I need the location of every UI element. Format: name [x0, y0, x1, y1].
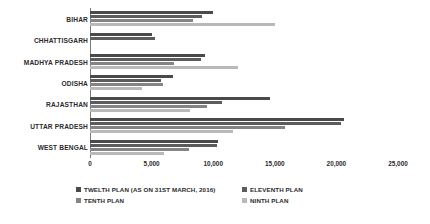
bar — [90, 83, 163, 86]
bar-group — [90, 8, 398, 29]
x-axis-tick-label: 20,000 — [327, 160, 347, 167]
bar-group — [90, 94, 398, 115]
bar-group — [90, 29, 398, 50]
legend-item[interactable]: ELEVENTH PLAN — [242, 186, 372, 193]
bar — [90, 126, 285, 129]
x-axis-ticks: 05,00010,00015,00020,00025,000 — [90, 160, 398, 174]
bar — [90, 15, 202, 18]
bar — [90, 23, 275, 26]
bar — [90, 37, 155, 40]
chart-legend: TWELTH PLAN (AS ON 31ST MARCH, 2016)ELEV… — [76, 184, 376, 206]
bar — [90, 19, 193, 22]
bar — [90, 54, 205, 57]
legend-item[interactable]: NINTH PLAN — [242, 197, 372, 204]
bar — [90, 105, 207, 108]
bar — [90, 79, 161, 82]
bar-group — [90, 137, 398, 158]
bar — [90, 144, 217, 147]
bar — [90, 152, 164, 155]
bar — [90, 122, 341, 125]
x-axis-tick-label: 25,000 — [388, 160, 408, 167]
x-axis-tick-label: 15,000 — [265, 160, 285, 167]
bar — [90, 148, 189, 151]
bar — [90, 87, 142, 90]
category-label: MADHYA PRADESH — [2, 58, 88, 65]
bar — [90, 75, 173, 78]
category-label: BIHAR — [2, 15, 88, 22]
bar — [90, 33, 152, 36]
bar — [90, 140, 218, 143]
category-label: WEST BENGAL — [2, 144, 88, 151]
x-axis-tick-label: 0 — [88, 160, 92, 167]
legend-swatch-icon — [76, 187, 81, 192]
category-label: RAJASTHAN — [2, 101, 88, 108]
category-axis-labels: BIHARCHHATTISGARHMADHYA PRADESHODISHARAJ… — [0, 8, 88, 158]
bar — [90, 130, 233, 133]
x-axis-tick-label: 5,000 — [144, 160, 160, 167]
category-label: ODISHA — [2, 80, 88, 87]
bar — [90, 97, 270, 100]
bar — [90, 62, 174, 65]
legend-label: NINTH PLAN — [250, 197, 288, 204]
bar-group — [90, 115, 398, 136]
legend-label: TENTH PLAN — [84, 197, 124, 204]
bar — [90, 101, 222, 104]
bar — [90, 118, 344, 121]
bar-group — [90, 72, 398, 93]
legend-swatch-icon — [242, 187, 247, 192]
bar — [90, 11, 213, 14]
bar-chart: BIHARCHHATTISGARHMADHYA PRADESHODISHARAJ… — [0, 0, 430, 224]
bar — [90, 58, 201, 61]
bar — [90, 109, 190, 112]
legend-label: ELEVENTH PLAN — [250, 186, 303, 193]
legend-item[interactable]: TWELTH PLAN (AS ON 31ST MARCH, 2016) — [76, 186, 242, 193]
x-axis-tick-label: 10,000 — [203, 160, 223, 167]
legend-swatch-icon — [76, 198, 81, 203]
category-label: CHHATTISGARH — [2, 37, 88, 44]
bar — [90, 66, 238, 69]
bar-group — [90, 51, 398, 72]
plot-area — [90, 8, 398, 158]
legend-label: TWELTH PLAN (AS ON 31ST MARCH, 2016) — [84, 186, 215, 193]
category-label: UTTAR PRADESH — [2, 122, 88, 129]
legend-item[interactable]: TENTH PLAN — [76, 197, 242, 204]
legend-swatch-icon — [242, 198, 247, 203]
